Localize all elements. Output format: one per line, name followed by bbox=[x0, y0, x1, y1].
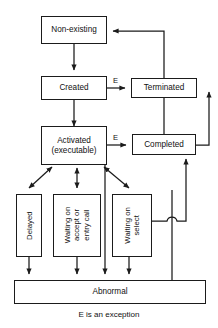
state-activated[interactable]: Activated (executable) bbox=[41, 126, 107, 165]
edge-activated-waiting-select bbox=[104, 167, 129, 188]
state-waiting-accept-entry-call-label: Waiting on accept or entry call bbox=[63, 207, 91, 244]
state-non-existing-label: Non-existing bbox=[51, 25, 97, 35]
edge-activated-delayed bbox=[29, 167, 52, 188]
state-diagram: Non-existing Created Terminated Activate… bbox=[0, 0, 218, 328]
edge-label-created-terminated: E bbox=[113, 76, 118, 85]
connector-layer bbox=[0, 0, 218, 328]
edge-completed-terminated-rail bbox=[196, 92, 209, 145]
state-abnormal[interactable]: Abnormal bbox=[14, 280, 206, 304]
state-created[interactable]: Created bbox=[41, 76, 107, 100]
state-activated-label: Activated (executable) bbox=[51, 136, 96, 155]
state-abnormal-label: Abnormal bbox=[92, 287, 127, 297]
state-waiting-select-label: Waiting on select bbox=[123, 207, 142, 244]
state-waiting-accept-entry-call[interactable]: Waiting on accept or entry call bbox=[53, 194, 101, 257]
state-completed[interactable]: Completed bbox=[132, 134, 196, 155]
state-created-label: Created bbox=[59, 83, 88, 93]
state-terminated-label: Terminated bbox=[144, 83, 185, 93]
state-delayed[interactable]: Delayed bbox=[16, 194, 42, 257]
state-terminated[interactable]: Terminated bbox=[131, 78, 197, 98]
diagram-caption: E is an exception bbox=[0, 310, 218, 319]
state-completed-label: Completed bbox=[144, 140, 184, 150]
edge-label-activated-completed: E bbox=[113, 133, 118, 142]
edge-waiting-select-completed bbox=[152, 159, 186, 221]
state-waiting-select[interactable]: Waiting on select bbox=[112, 194, 152, 257]
state-delayed-label: Delayed bbox=[24, 211, 33, 240]
edge-terminated-nonexisting bbox=[113, 31, 164, 78]
state-non-existing[interactable]: Non-existing bbox=[41, 16, 107, 44]
